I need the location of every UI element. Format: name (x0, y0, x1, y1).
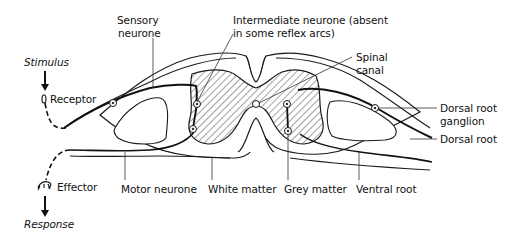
effector-icon (38, 182, 51, 190)
label-sensory-2: neurone (118, 27, 161, 39)
label-ganglion-1: Dorsal root (440, 102, 497, 114)
label-motor-neurone: Motor neurone (121, 183, 197, 195)
label-stimulus: Stimulus (24, 56, 69, 68)
label-receptor: Receptor (50, 93, 96, 105)
label-sensory-1: Sensory (117, 14, 159, 26)
label-white-matter: White matter (208, 183, 276, 195)
label-intermediate-2: in some reflex arcs) (233, 27, 335, 39)
label-effector: Effector (57, 181, 97, 193)
response-arrow-icon (41, 196, 49, 217)
stimulus-arrow-icon (41, 71, 49, 91)
left-root-inner (114, 98, 168, 144)
label-spinal-canal-1: Spinal (356, 51, 388, 63)
label-ganglion-2: ganglion (440, 115, 485, 127)
receptor-icon (42, 95, 46, 103)
motor-dashed-link (46, 150, 70, 180)
label-response: Response (24, 218, 74, 230)
label-intermediate-1: Intermediate neurone (absent (233, 14, 388, 26)
label-dorsal-root: Dorsal root (440, 133, 497, 145)
spinal-canal (253, 101, 260, 108)
label-ventral-root: Ventral root (356, 183, 416, 195)
label-spinal-canal-2: canal (356, 64, 384, 76)
sensory-dashed-link (45, 103, 66, 128)
label-grey-matter: Grey matter (284, 183, 347, 195)
right-root-inner (327, 101, 396, 141)
